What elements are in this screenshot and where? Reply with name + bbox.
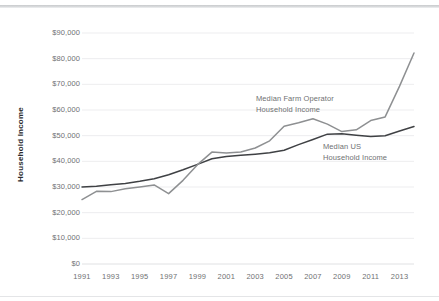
- chart-figure: Household Income $0$10,000$20,000$30,000…: [0, 0, 439, 301]
- annotation-line: Median US: [323, 142, 387, 153]
- annotation-line: Household Income: [323, 153, 387, 164]
- series-lines: [82, 53, 414, 200]
- annotation-line: Median Farm Operator: [256, 94, 334, 105]
- series-line: [82, 53, 414, 200]
- annotation-median-us: Median USHousehold Income: [323, 142, 387, 163]
- annotation-line: Household Income: [256, 105, 334, 116]
- annotation-farm-operator: Median Farm OperatorHousehold Income: [256, 94, 334, 115]
